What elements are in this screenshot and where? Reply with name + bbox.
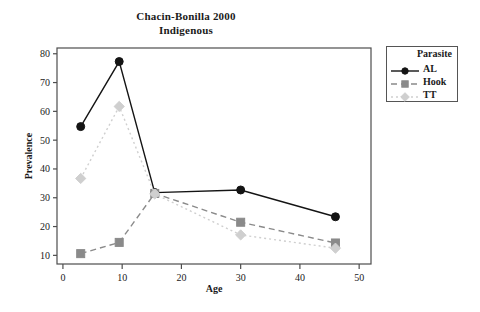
- x-axis-title: Age: [206, 283, 223, 294]
- legend-key-tt-icon: [390, 89, 420, 101]
- chart-page: Chacin-Bonilla 2000 Indigenous 102030405…: [0, 0, 480, 312]
- legend-item-al[interactable]: AL: [390, 62, 456, 76]
- y-tick-label: 70: [40, 77, 50, 88]
- x-tick-label: 40: [295, 272, 305, 283]
- y-tick-label: 50: [40, 135, 50, 146]
- legend-title: Parasite: [417, 48, 452, 59]
- x-tick-label: 0: [60, 272, 65, 283]
- legend-label-al: AL: [420, 63, 437, 75]
- series-hook: [77, 189, 340, 257]
- legend-item-hook[interactable]: Hook: [390, 75, 456, 89]
- x-tick-label: 20: [176, 272, 186, 283]
- series-tt: [76, 101, 341, 253]
- x-tick-label: 30: [236, 272, 246, 283]
- legend-label-tt: TT: [420, 89, 436, 101]
- y-axis-title: Prevalence: [23, 132, 34, 179]
- y-tick-label: 60: [40, 106, 50, 117]
- series-layer: [76, 58, 341, 258]
- y-tick-label: 80: [40, 48, 50, 59]
- y-tick-label: 30: [40, 192, 50, 203]
- legend-key-al-icon: [390, 63, 420, 75]
- x-tick-label: 50: [354, 272, 364, 283]
- series-al: [77, 58, 340, 221]
- axes-layer: 102030405060708001020304050: [40, 48, 371, 283]
- y-tick-label: 40: [40, 163, 50, 174]
- y-tick-label: 20: [40, 221, 50, 232]
- x-tick-label: 10: [117, 272, 127, 283]
- legend-label-hook: Hook: [420, 76, 446, 88]
- legend-key-hook-icon: [390, 76, 420, 88]
- legend-item-tt[interactable]: TT: [390, 88, 456, 102]
- legend: Parasite AL Hook TT: [386, 46, 458, 102]
- y-tick-label: 10: [40, 250, 50, 261]
